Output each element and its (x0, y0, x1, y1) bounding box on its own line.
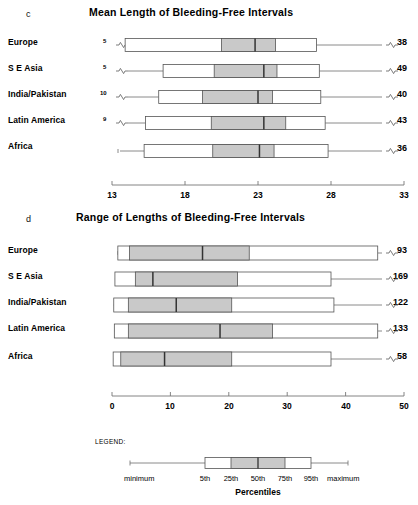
panel-d: d Range of Lengths of Bleeding-Free Inte… (0, 205, 418, 415)
panel-c-tick-4: 33 (399, 190, 408, 200)
panel-d-tick-2: 20 (224, 401, 233, 411)
legend-percentiles-axis-label: Percentiles (235, 487, 280, 497)
legend-panel: LEGEND: minimum maximum 5th 25th 50th 75… (0, 415, 418, 505)
panel-d-tick-0: 0 (110, 401, 115, 411)
panel-d-tick-5: 50 (399, 401, 408, 411)
panel-c-tick-3: 28 (326, 190, 335, 200)
panel-c-plot (0, 0, 418, 205)
legend-pct-25th: 25th (224, 474, 239, 483)
panel-d-tick-4: 40 (341, 401, 350, 411)
legend-maximum-label: maximum (327, 474, 360, 483)
panel-c: c Mean Length of Bleeding-Free Intervals… (0, 0, 418, 205)
legend-minimum-label: minimum (124, 474, 154, 483)
legend-pct-5th: 5th (200, 474, 210, 483)
legend-pct-50th: 50th (251, 474, 266, 483)
panel-d-plot (0, 205, 418, 415)
panel-d-tick-3: 30 (282, 401, 291, 411)
panel-c-tick-0: 13 (107, 190, 116, 200)
legend-pct-95th: 95th (304, 474, 319, 483)
panel-d-tick-1: 10 (165, 401, 174, 411)
legend-pct-75th: 75th (278, 474, 293, 483)
panel-c-tick-1: 18 (180, 190, 189, 200)
legend-plot (0, 415, 418, 505)
panel-c-tick-2: 23 (253, 190, 262, 200)
